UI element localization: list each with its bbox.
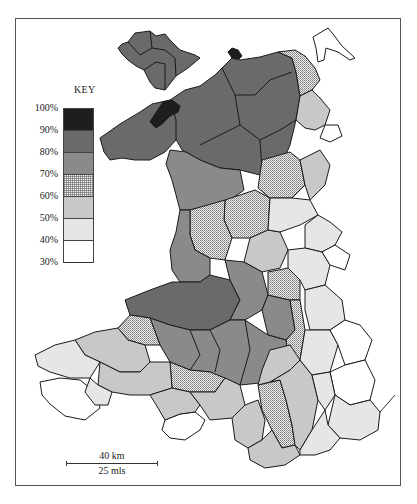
key-swatch-30-40: [64, 241, 93, 263]
region-mid-checker-1: [258, 152, 305, 198]
key-swatch-60-70: [64, 175, 93, 197]
region-east-white-2: [330, 320, 372, 365]
key-swatch-50-60: [64, 197, 93, 219]
key-swatch-70-80: [64, 153, 93, 175]
key-swatch-80-90: [64, 131, 93, 153]
severn-estuary-line: [380, 395, 395, 412]
key-label-90: 90%: [18, 124, 58, 135]
scale-miles-label: 25 mls: [66, 465, 158, 476]
region-anglesey: [118, 31, 200, 90]
key-label-30: 30%: [18, 256, 58, 267]
scale-line: [66, 463, 158, 464]
region-wirral-outline: [313, 28, 355, 62]
key-swatch-40-50: [64, 219, 93, 241]
key-label-60: 60%: [18, 190, 58, 201]
key-label-100: 100%: [18, 102, 58, 113]
region-mid-light-1: [300, 150, 330, 200]
region-wrexham-light: [296, 90, 330, 130]
region-north-coast-black: [228, 48, 242, 60]
key-label-50: 50%: [18, 212, 58, 223]
key-label-80: 80%: [18, 146, 58, 157]
region-east-verylight-3: [305, 285, 345, 330]
scale-km-label: 40 km: [66, 450, 158, 461]
key-swatch-90-100: [64, 109, 93, 131]
key-label-40: 40%: [18, 234, 58, 245]
region-east-white-1: [320, 125, 342, 142]
key-color-bar: [63, 108, 94, 263]
key-label-70: 70%: [18, 168, 58, 179]
key-title: KEY: [74, 84, 114, 95]
